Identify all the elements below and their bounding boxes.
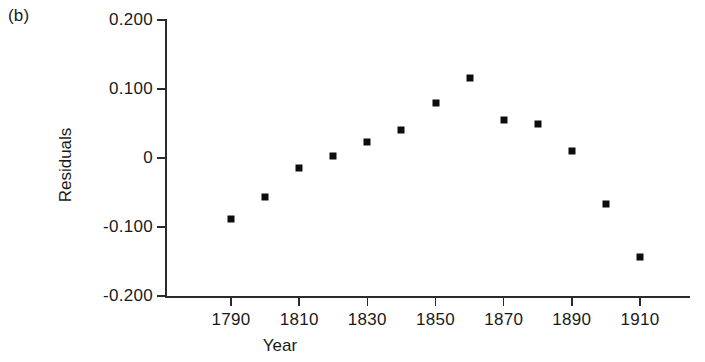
data-point-marker <box>432 100 439 107</box>
x-tick-mark <box>503 297 505 306</box>
x-tick-label: 1910 <box>620 310 659 330</box>
data-point-marker <box>228 216 235 223</box>
data-point-marker <box>262 194 269 201</box>
panel-label: (b) <box>8 6 29 26</box>
data-point-marker <box>398 127 405 134</box>
x-tick-mark <box>639 297 641 306</box>
x-tick-label: 1850 <box>416 310 455 330</box>
x-tick-label: 1870 <box>484 310 523 330</box>
x-tick-label: 1790 <box>211 310 250 330</box>
y-axis-title: Residuals <box>56 128 76 203</box>
data-point-marker <box>364 139 371 146</box>
x-tick-label: 1890 <box>552 310 591 330</box>
x-axis-title: Year <box>0 336 705 356</box>
y-tick-mark <box>157 88 166 90</box>
plot-area <box>166 20 690 296</box>
y-tick-label: 0.200 <box>109 10 153 30</box>
x-tick-label: 1830 <box>348 310 387 330</box>
figure-panel-b: (b) 0.2000.1000-0.100-0.200 179018101830… <box>0 0 705 362</box>
y-tick-label: 0 <box>143 148 153 168</box>
data-point-marker <box>466 74 473 81</box>
x-tick-mark <box>298 297 300 306</box>
y-tick-mark <box>157 226 166 228</box>
x-tick-mark <box>230 297 232 306</box>
data-point-marker <box>500 117 507 124</box>
data-point-marker <box>296 165 303 172</box>
y-tick-mark <box>157 157 166 159</box>
x-axis-title-text: Year <box>263 336 297 356</box>
data-point-marker <box>637 254 644 261</box>
data-point-marker <box>330 152 337 159</box>
x-tick-mark <box>367 297 369 306</box>
x-tick-label: 1810 <box>280 310 319 330</box>
x-tick-mark <box>435 297 437 306</box>
data-point-marker <box>602 200 609 207</box>
y-tick-label: -0.100 <box>103 217 153 237</box>
x-tick-mark <box>571 297 573 306</box>
data-point-marker <box>568 148 575 155</box>
y-tick-mark <box>157 19 166 21</box>
data-point-marker <box>534 121 541 128</box>
y-tick-label: 0.100 <box>109 79 153 99</box>
